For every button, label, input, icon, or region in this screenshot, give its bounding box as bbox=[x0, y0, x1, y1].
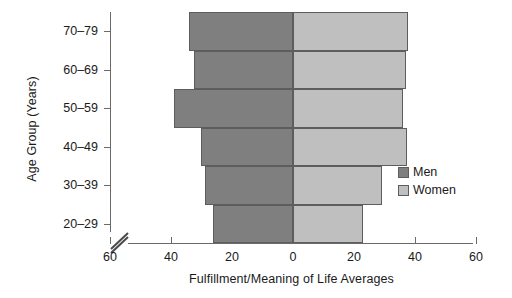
legend-label: Men bbox=[413, 166, 437, 179]
bar-women-30-39 bbox=[293, 166, 382, 205]
bar-women-20-29 bbox=[293, 205, 363, 244]
y-axis-tick bbox=[104, 70, 111, 71]
x-axis-tick-label: 40 bbox=[390, 250, 440, 264]
y-axis-tick bbox=[104, 185, 111, 186]
bar-women-60-69 bbox=[293, 51, 406, 90]
x-axis-tick bbox=[476, 237, 477, 244]
y-axis-tick-label: 50–59 bbox=[40, 101, 98, 115]
x-axis-tick-label: 40 bbox=[146, 250, 196, 264]
legend-item-women: Women bbox=[398, 181, 456, 199]
y-axis-tick-label: 20–29 bbox=[40, 217, 98, 231]
bar-men-30-39 bbox=[205, 166, 293, 205]
legend-swatch-icon bbox=[398, 185, 409, 196]
y-axis-tick-label: 70–79 bbox=[40, 24, 98, 38]
bar-women-70-79 bbox=[293, 12, 408, 51]
bar-men-40-49 bbox=[201, 128, 293, 167]
y-axis-tick-label: 60–69 bbox=[40, 63, 98, 77]
y-axis-tick bbox=[104, 31, 111, 32]
x-axis-tick-label: 0 bbox=[268, 250, 318, 264]
x-axis-title: Fulfillment/Meaning of Life Averages bbox=[110, 272, 473, 286]
chart-legend: MenWomen bbox=[398, 163, 456, 199]
y-axis-title: Age Group (Years) bbox=[25, 29, 39, 229]
legend-item-men: Men bbox=[398, 163, 456, 181]
bar-women-40-49 bbox=[293, 128, 407, 167]
y-axis-tick-label: 30–39 bbox=[40, 178, 98, 192]
legend-label: Women bbox=[413, 184, 456, 197]
bar-men-20-29 bbox=[213, 205, 293, 244]
x-axis-tick bbox=[415, 237, 416, 244]
y-axis-tick bbox=[104, 108, 111, 109]
x-axis-tick-label: 60 bbox=[85, 250, 135, 264]
legend-swatch-icon bbox=[398, 167, 409, 178]
x-axis-tick-label: 20 bbox=[207, 250, 257, 264]
y-axis-tick bbox=[104, 224, 111, 225]
y-axis-line bbox=[110, 12, 111, 232]
bar-men-50-59 bbox=[174, 89, 293, 128]
population-pyramid-chart: Age Group (Years) 20–2930–3940–4950–5960… bbox=[0, 0, 512, 298]
bar-men-60-69 bbox=[194, 51, 293, 90]
y-axis-tick-label: 40–49 bbox=[40, 140, 98, 154]
x-axis-tick bbox=[110, 237, 111, 244]
y-axis-tick bbox=[104, 147, 111, 148]
x-axis-tick-label: 20 bbox=[329, 250, 379, 264]
bar-men-70-79 bbox=[189, 12, 293, 51]
x-axis-tick-label: 60 bbox=[451, 250, 501, 264]
x-axis-line bbox=[128, 243, 473, 244]
bar-women-50-59 bbox=[293, 89, 403, 128]
x-axis-tick bbox=[171, 237, 172, 244]
